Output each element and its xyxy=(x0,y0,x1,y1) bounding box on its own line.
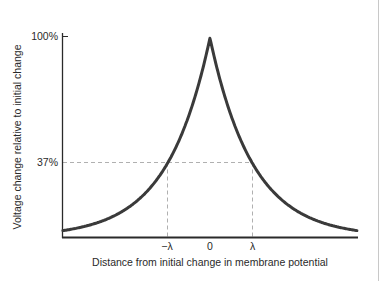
chart: 100% 37% −λ 0 λ Distance from initial ch… xyxy=(0,0,385,281)
x-tick-label-zero: 0 xyxy=(207,240,213,252)
y-axis-title: Voltage change relative to initial chang… xyxy=(11,44,23,229)
decay-curve xyxy=(63,38,357,230)
y-tick-label-100: 100% xyxy=(31,30,58,42)
x-tick-label-pos-lambda: λ xyxy=(250,240,256,252)
x-tick-label-neg-lambda: −λ xyxy=(161,240,173,252)
x-axis-title: Distance from initial change in membrane… xyxy=(92,256,328,268)
y-tick-label-37: 37% xyxy=(37,156,58,168)
